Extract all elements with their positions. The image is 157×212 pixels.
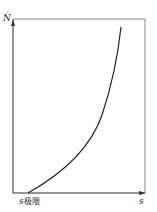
diagram-canvas: [0, 0, 157, 212]
curve: [28, 27, 121, 193]
x-axis-label: s: [139, 197, 144, 206]
frame-top-right: [13, 19, 145, 193]
x-origin-label-sub: 极限: [24, 197, 40, 206]
y-axis-label: Ṅ: [3, 14, 11, 23]
x-origin-label: s极限: [19, 197, 40, 206]
y-axis-arrow-icon: [11, 19, 15, 26]
